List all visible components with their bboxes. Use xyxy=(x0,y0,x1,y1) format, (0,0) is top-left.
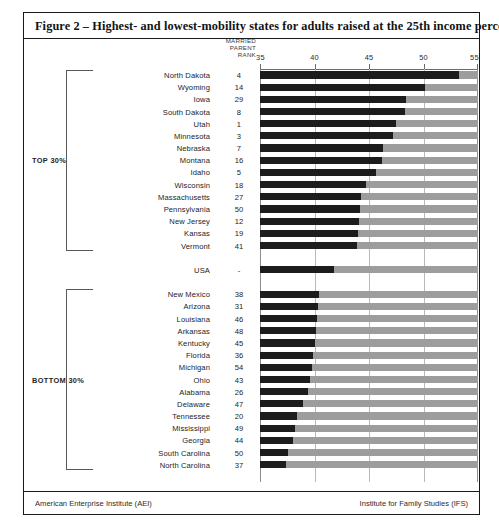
bar-value-florida xyxy=(260,352,313,359)
state-name-nebraska: Nebraska xyxy=(177,144,210,153)
footer-divider xyxy=(24,491,479,492)
bar-value-iowa xyxy=(260,96,406,103)
married-parent-rank-iowa: 29 xyxy=(228,95,250,104)
x-axis-label-35: 35 xyxy=(256,53,265,62)
state-name-iowa: Iowa xyxy=(194,95,210,104)
married-parent-rank-arizona: 31 xyxy=(228,302,250,311)
x-axis-label-45: 45 xyxy=(365,53,374,62)
bar-row xyxy=(260,191,478,203)
bar-row xyxy=(260,166,478,178)
bar-value-south-dakota xyxy=(260,108,405,115)
bar-value-ohio xyxy=(260,376,310,383)
bar-track xyxy=(260,437,478,444)
bar-value-south-carolina xyxy=(260,449,288,456)
bracket-arm-bottom xyxy=(67,469,93,470)
married-parent-rank-new-mexico: 38 xyxy=(228,290,250,299)
state-name-ohio: Ohio xyxy=(194,376,210,385)
group-bottom-30-label: BOTTOM 30% xyxy=(32,376,84,385)
bar-track xyxy=(260,461,478,468)
bar-value-kentucky xyxy=(260,339,315,346)
bar-value-wisconsin xyxy=(260,181,366,188)
bar-value-idaho xyxy=(260,169,376,176)
state-name-montana: Montana xyxy=(180,156,210,165)
bar-row xyxy=(260,240,478,252)
state-name-kansas: Kansas xyxy=(184,229,210,238)
bar-value-pennsylvania xyxy=(260,205,360,212)
rank-column-header: MARRIED PARENT RANK xyxy=(196,37,256,58)
state-name-georgia: Georgia xyxy=(182,436,210,445)
bar-value-arkansas xyxy=(260,327,316,334)
bar-row xyxy=(260,106,478,118)
bar-row xyxy=(260,374,478,386)
state-name-florida: Florida xyxy=(186,351,210,360)
state-name-pennsylvania: Pennsylvania xyxy=(164,205,210,214)
bar-row xyxy=(260,215,478,227)
married-parent-rank-montana: 16 xyxy=(228,156,250,165)
bar-value-utah xyxy=(260,120,396,127)
state-name-new-jersey: New Jersey xyxy=(169,217,210,226)
married-parent-rank-usa: - xyxy=(228,266,250,275)
bar-value-georgia xyxy=(260,437,293,444)
married-parent-rank-massachusetts: 27 xyxy=(228,193,250,202)
bar-row xyxy=(260,434,478,446)
bar-row xyxy=(260,398,478,410)
bar-value-usa xyxy=(260,266,334,273)
bar-row xyxy=(260,81,478,93)
bar-row xyxy=(260,447,478,459)
married-parent-rank-michigan: 54 xyxy=(228,363,250,372)
bar-value-kansas xyxy=(260,230,358,237)
bar-row xyxy=(260,118,478,130)
married-parent-rank-delaware: 47 xyxy=(228,400,250,409)
state-name-tennessee: Tennessee xyxy=(172,412,210,421)
state-name-idaho: Idaho xyxy=(190,168,210,177)
married-parent-rank-utah: 1 xyxy=(228,120,250,129)
state-name-michigan: Michigan xyxy=(179,363,210,372)
bar-row xyxy=(260,288,478,300)
x-axis-label-55: 55 xyxy=(470,53,479,62)
married-parent-rank-florida: 36 xyxy=(228,351,250,360)
bar-row xyxy=(260,386,478,398)
bar-row xyxy=(260,410,478,422)
bar-track xyxy=(260,449,478,456)
bar-value-louisiana xyxy=(260,315,317,322)
married-parent-rank-north-dakota: 4 xyxy=(228,71,250,80)
married-parent-rank-mississippi: 49 xyxy=(228,424,250,433)
bar-row xyxy=(260,313,478,325)
x-axis-label-50: 50 xyxy=(419,53,428,62)
married-parent-rank-minnesota: 3 xyxy=(228,132,250,141)
married-parent-rank-idaho: 5 xyxy=(228,168,250,177)
married-parent-rank-kansas: 19 xyxy=(228,229,250,238)
married-parent-rank-alabama: 26 xyxy=(228,388,250,397)
bar-row xyxy=(260,361,478,373)
state-name-massachusetts: Massachusetts xyxy=(158,193,210,202)
state-name-mississippi: Mississippi xyxy=(172,424,210,433)
state-name-louisiana: Louisiana xyxy=(177,315,210,324)
bar-row xyxy=(260,300,478,312)
group-top-30-label: TOP 30% xyxy=(32,156,66,165)
married-parent-rank-vermont: 41 xyxy=(228,242,250,251)
bar-row xyxy=(260,349,478,361)
bar-row xyxy=(260,203,478,215)
row-label-column: North Dakota4Wyoming14Iowa29South Dakota… xyxy=(84,69,260,482)
state-name-new-mexico: New Mexico xyxy=(168,290,210,299)
bar-row xyxy=(260,227,478,239)
married-parent-rank-louisiana: 46 xyxy=(228,315,250,324)
bar-value-tennessee xyxy=(260,412,297,419)
bar-row xyxy=(260,154,478,166)
married-parent-rank-arkansas: 48 xyxy=(228,327,250,336)
bar-row xyxy=(260,337,478,349)
bar-value-wyoming xyxy=(260,84,425,91)
footer-source-left: American Enterprise Institute (AEI) xyxy=(35,499,152,508)
bar-row xyxy=(260,325,478,337)
bar-plot-area xyxy=(260,69,478,482)
bar-row xyxy=(260,179,478,191)
bar-value-nebraska xyxy=(260,144,383,151)
state-name-alabama: Alabama xyxy=(179,388,210,397)
state-name-usa: USA xyxy=(194,266,210,275)
bar-row xyxy=(260,142,478,154)
footer-source-right: Institute for Family Studies (IFS) xyxy=(360,499,468,508)
bar-row xyxy=(260,422,478,434)
state-name-utah: Utah xyxy=(194,120,210,129)
bar-value-minnesota xyxy=(260,132,393,139)
state-name-minnesota: Minnesota xyxy=(174,132,210,141)
